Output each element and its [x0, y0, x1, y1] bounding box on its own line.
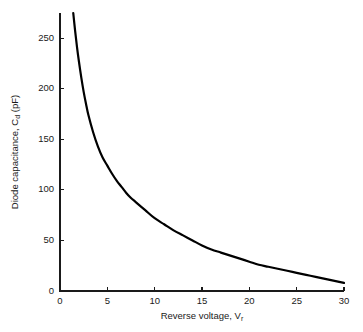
y-tick-label: 50: [43, 234, 54, 245]
y-tick-label: 100: [38, 183, 54, 194]
y-tick-label: 0: [49, 285, 54, 296]
chart-figure: 051015202530 050100150200250 Reverse vol…: [0, 0, 363, 332]
x-axis-tick-labels: 051015202530: [57, 295, 349, 306]
y-axis-tick-labels: 050100150200250: [38, 32, 54, 296]
y-tick-label: 250: [38, 32, 54, 43]
x-tick-label: 5: [105, 295, 110, 306]
y-tick-label: 200: [38, 82, 54, 93]
x-tick-label: 25: [291, 295, 302, 306]
x-axis-tick-marks: [107, 287, 344, 291]
data-series-group: [73, 13, 344, 283]
chart-canvas: 051015202530 050100150200250 Reverse vol…: [0, 0, 363, 332]
x-tick-label: 10: [149, 295, 160, 306]
x-tick-label: 15: [197, 295, 208, 306]
x-tick-label: 0: [57, 295, 62, 306]
axis-lines: [60, 13, 344, 291]
y-axis-title: Diode capacitance, Cd (pF): [9, 95, 21, 209]
y-axis-tick-marks: [60, 38, 64, 240]
capacitance-curve: [73, 13, 344, 283]
plot-axes: [60, 13, 344, 291]
y-tick-label: 150: [38, 133, 54, 144]
x-tick-label: 30: [339, 295, 350, 306]
x-axis-title: Reverse voltage, Vr: [161, 310, 244, 322]
x-tick-label: 20: [244, 295, 255, 306]
